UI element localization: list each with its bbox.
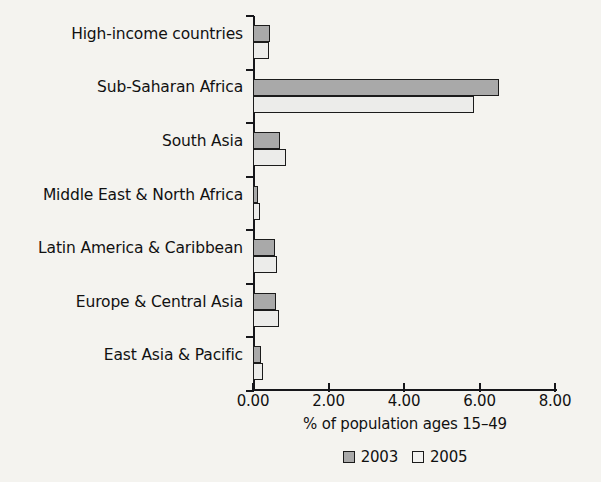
legend-swatch-2005-icon: [412, 451, 424, 463]
category-label: East Asia & Pacific: [0, 346, 243, 364]
legend-label-2005: 2005: [430, 448, 467, 466]
bar-group: [253, 230, 555, 284]
category-label: Latin America & Caribbean: [0, 239, 243, 257]
category-label: Middle East & North Africa: [0, 186, 243, 204]
bar-2005: [253, 42, 269, 59]
bar-group: [253, 284, 555, 338]
x-axis-tick-label: 6.00: [445, 392, 515, 410]
bar-2005: [253, 203, 260, 220]
bar-2003: [253, 186, 258, 203]
bar-group: [253, 70, 555, 124]
x-axis-tick-label: 8.00: [520, 392, 590, 410]
bar-2003: [253, 293, 276, 310]
x-axis-title: % of population ages 15–49: [253, 415, 557, 433]
bar-chart: High-income countriesSub-Saharan AfricaS…: [0, 0, 601, 482]
legend-swatch-2003-icon: [343, 451, 355, 463]
category-label: Europe & Central Asia: [0, 293, 243, 311]
bar-group: [253, 16, 555, 70]
plot-area: [253, 8, 555, 383]
category-label: South Asia: [0, 132, 243, 150]
x-axis-tick-label: 2.00: [294, 392, 364, 410]
bar-2003: [253, 25, 270, 42]
category-label: High-income countries: [0, 25, 243, 43]
bar-2003: [253, 132, 280, 149]
bar-2005: [253, 310, 279, 327]
bar-2005: [253, 363, 263, 380]
bar-2003: [253, 79, 499, 96]
bar-2005: [253, 149, 286, 166]
chart-legend: 2003 2005: [253, 448, 557, 466]
legend-item-2003: 2003: [343, 448, 398, 466]
bar-group: [253, 337, 555, 391]
bar-2003: [253, 239, 275, 256]
legend-label-2003: 2003: [361, 448, 398, 466]
bar-group: [253, 123, 555, 177]
bar-2005: [253, 96, 474, 113]
x-axis-tick-label: 4.00: [369, 392, 439, 410]
bar-group: [253, 177, 555, 231]
bar-2003: [253, 346, 261, 363]
x-axis-tick-label: 0.00: [218, 392, 288, 410]
legend-item-2005: 2005: [412, 448, 467, 466]
category-label: Sub-Saharan Africa: [0, 78, 243, 96]
bar-2005: [253, 256, 277, 273]
